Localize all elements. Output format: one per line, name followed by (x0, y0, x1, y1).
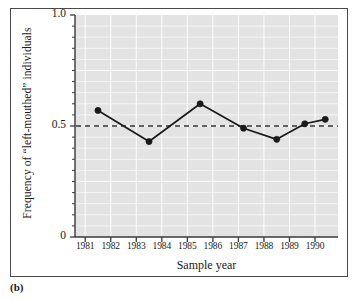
panel-label: (b) (10, 281, 23, 293)
y-axis-label: Frequency of “left-mouthed” individuals (21, 13, 33, 233)
chart-plot-area (0, 0, 355, 302)
y-tick-label: 1.0 (40, 7, 66, 19)
y-axis-ticks (70, 15, 75, 237)
y-tick-label: 0.5 (40, 118, 66, 130)
x-axis-label: Sample year (75, 258, 338, 273)
y-tick-label: 0 (40, 229, 66, 241)
x-tick-label: 1990 (300, 241, 330, 251)
